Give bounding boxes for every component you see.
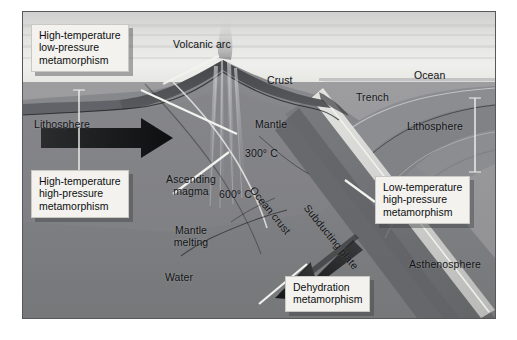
- callout-high-temp-low-pressure[interactable]: High-temperature low-pressure metamorphi…: [31, 24, 129, 72]
- callout-line: high-pressure: [39, 187, 121, 199]
- callout-line: metamorphism: [39, 200, 121, 212]
- callout-low-temp-high-pressure[interactable]: Low-temperature high-pressure metamorphi…: [375, 176, 470, 224]
- callout-line: low-pressure: [39, 41, 121, 53]
- callout-dehydration[interactable]: Dehydration metamorphism: [285, 276, 370, 312]
- callout-line: metamorphism: [39, 54, 121, 66]
- callout-line: High-temperature: [39, 29, 121, 41]
- callout-line: Dehydration: [293, 281, 362, 293]
- callout-line: high-pressure: [383, 193, 462, 205]
- figure-canvas: Volcanic arc Crust Ocean Trench Mantle L…: [0, 0, 517, 340]
- callout-line: High-temperature: [39, 175, 121, 187]
- callout-line: Low-temperature: [383, 181, 462, 193]
- callout-high-temp-high-pressure[interactable]: High-temperature high-pressure metamorph…: [31, 170, 129, 218]
- callout-line: metamorphism: [383, 206, 462, 218]
- callout-line: metamorphism: [293, 293, 362, 305]
- subduction-zone-diagram: Volcanic arc Crust Ocean Trench Mantle L…: [22, 11, 496, 319]
